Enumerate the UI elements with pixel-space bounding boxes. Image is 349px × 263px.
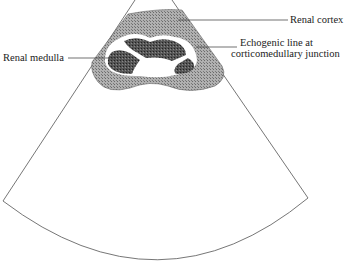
label-renal-cortex: Renal cortex [290, 14, 343, 25]
label-echogenic-line-1: Echogenic line at [240, 37, 313, 48]
label-echogenic-line-2: corticomedullary junction [231, 48, 340, 59]
renal-sinus [139, 58, 175, 76]
label-renal-medulla: Renal medulla [3, 52, 64, 63]
